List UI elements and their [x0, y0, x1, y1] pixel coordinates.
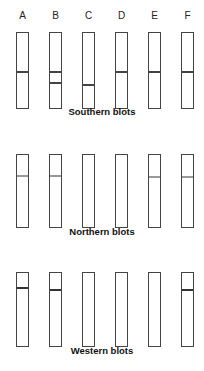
blot-band [50, 82, 61, 84]
blot-lane-c [82, 32, 95, 109]
blot-band [17, 175, 28, 177]
panel-title: Southern blots [0, 106, 204, 117]
lane-label-f: F [181, 10, 194, 21]
lane-label-c: C [82, 10, 95, 21]
blot-band [182, 289, 193, 291]
blot-lane-d [115, 154, 128, 228]
blot-lane-c [82, 154, 95, 228]
blot-lane-b [49, 154, 62, 228]
blot-lane-c [82, 272, 95, 347]
lane-label-e: E [148, 10, 161, 21]
blot-lane-d [115, 272, 128, 347]
blot-lane-f [181, 32, 194, 109]
blot-band [149, 71, 160, 73]
blot-lane-d [115, 32, 128, 109]
lane-label-d: D [115, 10, 128, 21]
blot-band [17, 71, 28, 73]
lane-label-b: B [49, 10, 62, 21]
blot-band [182, 176, 193, 178]
blot-band [83, 84, 94, 86]
blot-lane-b [49, 32, 62, 109]
blot-band [50, 175, 61, 177]
blot-band [149, 176, 160, 178]
blot-band [50, 289, 61, 291]
blot-lane-f [181, 272, 194, 347]
blot-lane-f [181, 154, 194, 228]
blot-lane-b [49, 272, 62, 347]
panel-title: Northern blots [0, 226, 204, 237]
blot-lane-a [16, 272, 29, 347]
blot-lane-e [148, 154, 161, 228]
lane-label-a: A [16, 10, 29, 21]
blot-lane-a [16, 32, 29, 109]
blot-lane-a [16, 154, 29, 228]
blot-band [50, 71, 61, 73]
panel-title: Western blots [0, 345, 204, 356]
blot-lane-e [148, 32, 161, 109]
blot-band [116, 71, 127, 73]
blot-lane-e [148, 272, 161, 347]
blot-band [17, 287, 28, 289]
blot-band [182, 71, 193, 73]
